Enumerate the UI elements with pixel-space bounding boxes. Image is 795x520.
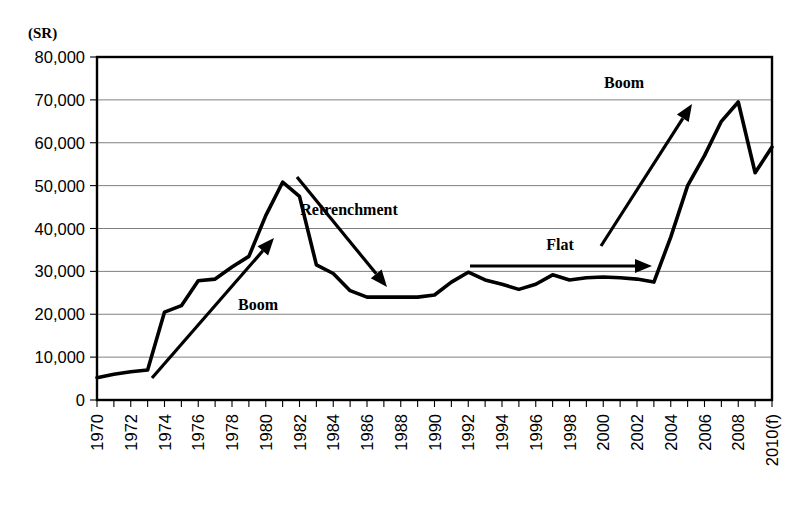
x-axis-tick-label: 1986 xyxy=(358,414,376,451)
y-axis-tick-label: 10,000 xyxy=(35,348,85,366)
y-axis-tick-label: 0 xyxy=(76,391,85,409)
x-axis-tick-label: 1996 xyxy=(527,414,545,451)
y-axis-tick-label: 20,000 xyxy=(35,305,85,323)
annotation-label: Flat xyxy=(546,236,574,253)
x-axis-tick-label: 1992 xyxy=(459,414,477,451)
y-axis-labels: 010,00020,00030,00040,00050,00060,00070,… xyxy=(35,48,85,409)
y-axis-tick-label: 60,000 xyxy=(35,134,85,152)
annotation-label: Boom xyxy=(238,296,279,313)
x-axis-tick-label: 1998 xyxy=(561,414,579,451)
annotation-label: Retrenchment xyxy=(300,201,398,218)
x-axis-tick-label: 1976 xyxy=(189,414,207,451)
x-axis-tick-label: 2000 xyxy=(594,414,612,451)
x-axis-tick-label: 1974 xyxy=(156,414,174,451)
annotation-label: Boom xyxy=(604,74,645,91)
x-axis-tick-label: 1990 xyxy=(426,414,444,451)
y-axis-tick-label: 40,000 xyxy=(35,220,85,238)
y-axis-tick-label: 80,000 xyxy=(35,48,85,66)
chart-container: 010,00020,00030,00040,00050,00060,00070,… xyxy=(0,0,795,520)
x-axis-tick-label: 2004 xyxy=(662,414,680,451)
x-axis-tick-label: 1978 xyxy=(223,414,241,451)
x-axis-tick-label: 2006 xyxy=(696,414,714,451)
x-axis-tick-label: 1988 xyxy=(392,414,410,451)
x-axis-tick-label: 2010(f) xyxy=(763,414,781,466)
x-axis-tick-label: 1970 xyxy=(88,414,106,451)
x-axis-tick-label: 2002 xyxy=(628,414,646,451)
y-axis-tick-label: 70,000 xyxy=(35,91,85,109)
y-axis-tick-label: 30,000 xyxy=(35,262,85,280)
line-chart: 010,00020,00030,00040,00050,00060,00070,… xyxy=(0,0,795,520)
x-axis-tick-label: 1994 xyxy=(493,414,511,451)
x-axis-tick-label: 1984 xyxy=(324,414,342,451)
y-axis-unit-label: (SR) xyxy=(28,25,57,42)
x-axis-tick-label: 1982 xyxy=(291,414,309,451)
x-axis-tick-label: 1980 xyxy=(257,414,275,451)
x-axis-tick-label: 2008 xyxy=(729,414,747,451)
y-axis-tick-label: 50,000 xyxy=(35,177,85,195)
x-axis-tick-label: 1972 xyxy=(122,414,140,451)
